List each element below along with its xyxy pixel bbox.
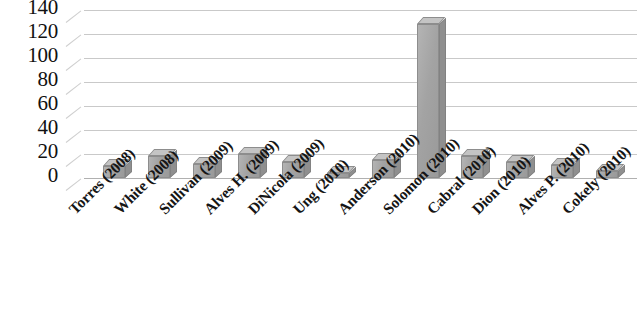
y-axis-tick-label: 0 bbox=[0, 165, 58, 186]
gridline-depth-edge bbox=[66, 178, 82, 190]
gridline-depth-edge bbox=[66, 10, 82, 22]
y-axis-tick-label: 40 bbox=[0, 117, 58, 138]
y-axis: 140120100806040200 bbox=[0, 0, 62, 200]
gridline bbox=[84, 82, 637, 83]
y-axis-tick-label: 120 bbox=[0, 21, 58, 42]
gridline-depth-edge bbox=[66, 82, 82, 94]
gridline bbox=[84, 10, 637, 11]
gridline bbox=[84, 34, 637, 35]
gridline bbox=[84, 106, 637, 107]
gridline-depth-edge bbox=[66, 34, 82, 46]
gridline bbox=[84, 58, 637, 59]
gridline-depth-edge bbox=[66, 58, 82, 70]
gridline-depth-edge bbox=[66, 130, 82, 142]
gridline-depth-edge bbox=[66, 154, 82, 166]
bar-chart: 140120100806040200 Torres (2008)White (2… bbox=[0, 0, 637, 328]
y-axis-tick-label: 140 bbox=[0, 0, 58, 18]
gridline bbox=[84, 130, 637, 131]
x-axis: Torres (2008)White (2008)Sullivan (2009)… bbox=[0, 200, 637, 328]
y-axis-tick-label: 100 bbox=[0, 45, 58, 66]
gridline-depth-edge bbox=[66, 106, 82, 118]
y-axis-tick-label: 60 bbox=[0, 93, 58, 114]
y-axis-tick-label: 80 bbox=[0, 69, 58, 90]
y-axis-tick-label: 20 bbox=[0, 141, 58, 162]
